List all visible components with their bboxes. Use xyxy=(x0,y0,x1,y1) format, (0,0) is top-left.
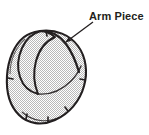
arm-piece-leader-arrow xyxy=(66,22,93,42)
figure-canvas: Arm Piece xyxy=(0,0,149,135)
notch-left-edge xyxy=(8,78,13,79)
notch-bottom-left xyxy=(26,114,27,119)
notch-top-center xyxy=(46,31,47,36)
notch-right-edge xyxy=(80,79,85,80)
arm-piece-diagram xyxy=(0,0,149,135)
leader-line xyxy=(66,22,93,42)
